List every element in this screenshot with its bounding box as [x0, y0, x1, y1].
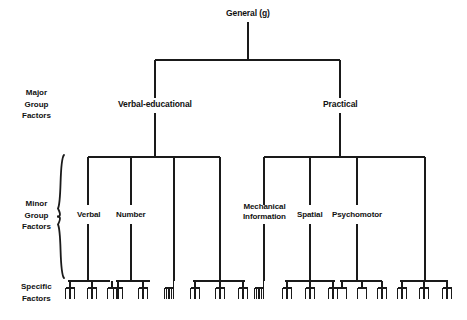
hierarchy-svg — [0, 0, 467, 320]
major-factor-0: Verbal-educational — [118, 100, 192, 110]
minor-factor-0: Verbal — [77, 210, 100, 220]
minor-factor-5: Spatial — [297, 210, 323, 220]
minor-group-brace — [57, 155, 64, 278]
major-factor-1: Practical — [323, 100, 358, 110]
diagram-canvas: General (g)Major Group FactorsMinor Grou… — [0, 0, 467, 320]
minor-factor-6: Psychomotor — [332, 210, 382, 220]
tier-label-major: Major Group Factors — [22, 87, 51, 122]
minor-factor-4: Mechanical Information — [243, 202, 286, 222]
minor-factor-1: Number — [116, 210, 146, 220]
tier-label-specific: Specific Factors — [21, 281, 52, 304]
connector-lines — [66, 22, 452, 299]
root-node-label: General (g) — [226, 9, 270, 19]
tier-label-minor: Minor Group Factors — [22, 198, 51, 233]
brace-group — [57, 155, 64, 278]
